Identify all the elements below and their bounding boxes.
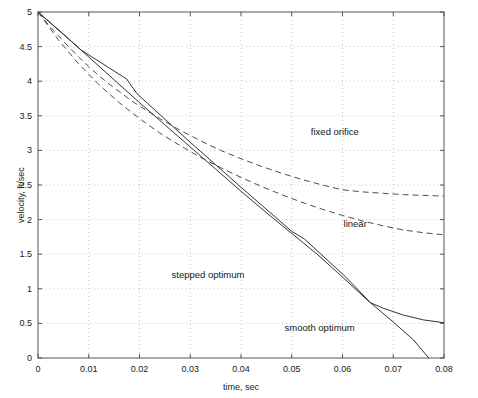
chart-figure: 00.010.020.030.040.050.060.070.08 00.511… [0, 0, 478, 398]
x-axis-title: time, sec [223, 382, 259, 392]
curve-label-fixed-orifice: fixed orifice [311, 126, 359, 137]
y-tick-label: 5 [27, 7, 32, 17]
curve-label-stepped-optimum: stepped optimum [172, 268, 245, 279]
y-tick-label: 1 [27, 284, 32, 294]
x-tick-label: 0.02 [131, 364, 149, 374]
curve-label-smooth-optimum: smooth optimum [285, 321, 355, 332]
y-tick-label: 4.5 [19, 42, 32, 52]
y-tick-label: 2 [27, 215, 32, 225]
x-tick-label: 0.07 [384, 364, 402, 374]
x-tick-label: 0 [35, 364, 40, 374]
curve-label-linear: linear [344, 218, 367, 229]
y-tick-label: 3 [27, 145, 32, 155]
x-tick-label: 0.03 [181, 364, 199, 374]
x-tick-label: 0.08 [435, 364, 453, 374]
x-tick-label: 0.06 [334, 364, 352, 374]
y-tick-label: 1.5 [19, 249, 32, 259]
y-tick-label: 3.5 [19, 111, 32, 121]
y-tick-label: 4 [27, 76, 32, 86]
velocity-vs-time-plot [0, 0, 478, 398]
y-axis-title: velocity, ft/sec [16, 167, 26, 223]
y-tick-label: 0 [27, 353, 32, 363]
y-tick-label: 0.5 [19, 318, 32, 328]
x-tick-label: 0.01 [80, 364, 98, 374]
x-tick-label: 0.05 [283, 364, 301, 374]
x-tick-label: 0.04 [232, 364, 250, 374]
